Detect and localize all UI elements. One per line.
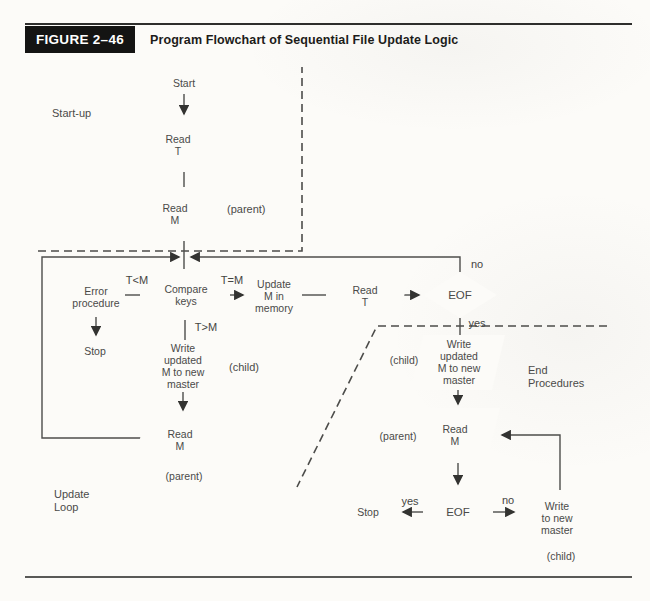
error-procedure-label: Error procedure	[72, 285, 119, 309]
section-label-startup: Start-up	[52, 107, 91, 120]
update-m-in-memory-label: Update M in memory	[255, 278, 293, 314]
stop-end-label: Stop	[357, 506, 379, 518]
write-updated-end-label: Write updated M to new master	[438, 338, 481, 386]
annotation-parent-startup: (parent)	[227, 203, 266, 216]
read-t-loop-label: Read T	[352, 284, 377, 308]
read-m-end-label: Read M	[442, 423, 467, 447]
edge-label-yes-loop: yes	[468, 317, 485, 329]
read-m-startup-label: Read M	[162, 202, 187, 226]
section-label-end-procedures: End Procedures	[528, 364, 584, 390]
connector-eof-no-return	[191, 257, 460, 272]
annotation-parent-end: (parent)	[380, 430, 417, 442]
read-m-loop-label: Read M	[167, 428, 192, 452]
edge-label-t-lt-m: T<M	[126, 274, 148, 286]
compare-keys-label: Compare keys	[164, 283, 207, 307]
edge-label-t-gt-m: T>M	[195, 321, 217, 333]
edge-label-no-end: no	[502, 494, 514, 506]
eof-loop-label: EOF	[448, 289, 472, 301]
annotation-child-loop: (child)	[229, 361, 259, 374]
section-label-update-loop: Update Loop	[54, 488, 89, 514]
annotation-parent-loop: (parent)	[166, 470, 203, 482]
annotation-child-end: (child)	[390, 354, 419, 366]
figure-page: FIGURE 2–46 Program Flowchart of Sequent…	[0, 0, 650, 601]
edge-label-yes-end: yes	[401, 495, 418, 507]
eof-end-label: EOF	[446, 506, 470, 518]
stop-loop-label: Stop	[84, 345, 106, 357]
annotation-child-write: (child)	[547, 550, 576, 562]
start-label: Start	[173, 77, 195, 89]
connector-write-to-read-m-feedback	[502, 435, 560, 490]
edge-label-no-loop: no	[471, 258, 483, 270]
write-to-new-master-label: Write to new master	[541, 500, 573, 536]
edge-label-t-eq-m: T=M	[221, 274, 243, 286]
read-t-startup-label: Read T	[165, 133, 190, 157]
write-updated-loop-label: Write updated M to new master	[162, 342, 205, 390]
